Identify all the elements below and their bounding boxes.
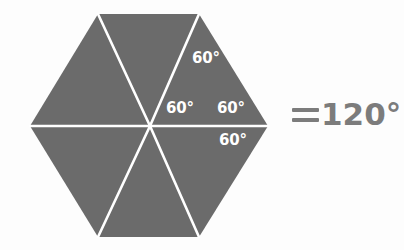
angle-label-middle-left: 60° <box>166 101 194 116</box>
angle-label-upper-right: 60° <box>192 51 220 66</box>
angle-label-middle-right: 60° <box>217 101 245 116</box>
equals-sign-icon <box>292 106 319 124</box>
result-value: 120° <box>321 99 401 130</box>
figure-canvas: 60° 60° 60° 60° 120° <box>0 0 404 250</box>
result-expression: 120° <box>292 99 401 130</box>
angle-label-lower-right: 60° <box>219 133 247 148</box>
